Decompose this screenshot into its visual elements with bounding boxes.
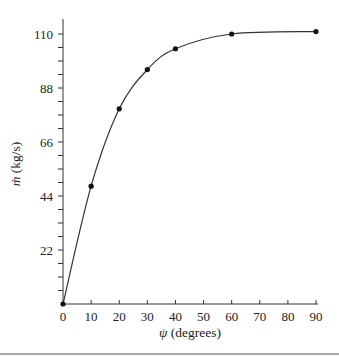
data-point [89, 184, 94, 189]
x-tick-label: 20 [113, 309, 126, 324]
y-axis-ticks: 22446688110 [34, 27, 63, 291]
y-tick-label: 44 [40, 189, 54, 204]
y-tick-label: 22 [40, 243, 53, 258]
x-tick-label: 80 [281, 309, 294, 324]
chart-plot-area: 22446688110 0102030405060708090 ψ (degre… [0, 0, 339, 357]
data-point [313, 29, 318, 34]
data-point [145, 67, 150, 72]
data-point [117, 106, 122, 111]
data-points [60, 29, 318, 307]
data-point [173, 46, 178, 51]
y-tick-label: 88 [40, 81, 53, 96]
x-axis-label: ψ (degrees) [159, 325, 221, 340]
x-tick-label: 70 [253, 309, 266, 324]
data-point [60, 301, 65, 306]
data-curve [63, 32, 316, 304]
x-tick-label: 90 [310, 309, 323, 324]
y-tick-label: 110 [34, 27, 53, 42]
x-tick-label: 60 [225, 309, 238, 324]
x-tick-label: 0 [60, 309, 67, 324]
y-axis-label: ṁ (kg/s) [8, 142, 23, 187]
x-tick-label: 30 [141, 309, 154, 324]
x-tick-label: 50 [197, 309, 210, 324]
x-tick-label: 40 [169, 309, 182, 324]
data-point [229, 31, 234, 36]
y-tick-label: 66 [40, 135, 54, 150]
x-tick-label: 10 [85, 309, 98, 324]
bottom-divider [0, 353, 339, 355]
